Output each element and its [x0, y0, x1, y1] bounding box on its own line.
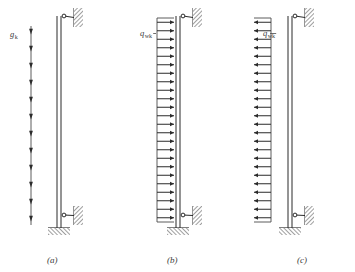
- load-label-b: qwk: [140, 28, 152, 39]
- load-arrow-down: [29, 80, 33, 86]
- load-arrowhead: [254, 80, 258, 84]
- load-arrowhead: [170, 88, 174, 92]
- structural-load-diagram: gk(a)qwk(b)qwk(c): [0, 0, 355, 272]
- load-arrowhead: [170, 216, 174, 220]
- link-pin: [62, 213, 66, 217]
- load-arrow-down: [29, 148, 33, 154]
- load-arrowhead: [170, 80, 174, 84]
- load-arrowhead: [254, 148, 258, 152]
- link-pin: [62, 14, 66, 18]
- load-arrowhead: [254, 122, 258, 126]
- load-arrowhead: [170, 156, 174, 160]
- link-pin: [293, 213, 297, 217]
- wall-hatch: [305, 206, 314, 225]
- link-pin: [293, 14, 297, 18]
- panel-caption-c: (c): [297, 255, 307, 265]
- load-arrow-down: [29, 216, 33, 222]
- load-arrowhead: [170, 105, 174, 109]
- column-c: [288, 16, 292, 228]
- load-arrowhead: [170, 97, 174, 101]
- panel-caption-a: (a): [47, 255, 58, 265]
- load-arrow-down: [29, 165, 33, 171]
- load-arrowhead: [170, 46, 174, 50]
- load-arrow-down: [29, 29, 33, 35]
- load-subscript: wk: [145, 33, 152, 39]
- load-arrowhead: [170, 165, 174, 169]
- load-arrows-b: [157, 18, 174, 222]
- load-arrowhead: [170, 20, 174, 24]
- load-arrowhead: [170, 114, 174, 118]
- diagram-canvas: gk(a)qwk(b)qwk(c): [0, 0, 355, 272]
- base-support-a: [48, 228, 70, 235]
- load-arrowhead: [170, 182, 174, 186]
- load-arrowhead: [254, 46, 258, 50]
- load-arrow-down: [29, 46, 33, 52]
- load-arrowhead: [254, 71, 258, 75]
- load-arrow-down: [29, 199, 33, 205]
- panel-a: [29, 8, 83, 235]
- load-arrowhead: [254, 20, 258, 24]
- column-b: [176, 16, 180, 228]
- load-arrowhead: [170, 207, 174, 211]
- top-support-c: [293, 8, 314, 27]
- load-arrowhead: [170, 63, 174, 67]
- bottom-support-c: [293, 206, 314, 225]
- load-arrowhead: [254, 207, 258, 211]
- base-hatch: [167, 228, 189, 235]
- bottom-support-a: [62, 206, 83, 225]
- column-a: [57, 16, 61, 228]
- load-symbol: g: [10, 29, 14, 39]
- load-arrowhead: [170, 131, 174, 135]
- base-support-c: [279, 228, 301, 235]
- load-arrow-down: [29, 114, 33, 120]
- load-arrowhead: [254, 156, 258, 160]
- load-arrowhead: [254, 97, 258, 101]
- load-arrowhead: [254, 54, 258, 58]
- load-arrowhead: [170, 148, 174, 152]
- load-arrowhead: [254, 88, 258, 92]
- load-arrowhead: [254, 105, 258, 109]
- load-arrowhead: [254, 114, 258, 118]
- load-arrow-down: [29, 97, 33, 103]
- link-pin: [181, 14, 185, 18]
- bottom-support-b: [181, 206, 202, 225]
- load-arrowhead: [170, 29, 174, 33]
- wall-hatch: [74, 206, 83, 225]
- load-arrowhead: [254, 182, 258, 186]
- wall-hatch: [193, 206, 202, 225]
- load-arrowhead: [170, 37, 174, 41]
- load-arrowhead: [254, 216, 258, 220]
- load-arrows-c: [254, 18, 271, 222]
- load-arrowhead: [254, 165, 258, 169]
- load-arrows-a: [29, 26, 33, 225]
- link-pin: [181, 213, 185, 217]
- load-arrowhead: [170, 54, 174, 58]
- load-arrow-down: [29, 63, 33, 69]
- load-arrowhead: [254, 190, 258, 194]
- base-hatch: [279, 228, 301, 235]
- base-hatch: [48, 228, 70, 235]
- base-support-b: [167, 228, 189, 235]
- panel-c: [254, 8, 314, 235]
- load-arrowhead: [170, 190, 174, 194]
- load-subscript: wk: [268, 33, 275, 39]
- load-subscript: k: [15, 34, 18, 40]
- wall-hatch: [74, 8, 83, 27]
- load-arrowhead: [254, 199, 258, 203]
- load-arrowhead: [254, 29, 258, 33]
- load-arrowhead: [170, 122, 174, 126]
- load-arrowhead: [254, 139, 258, 143]
- load-arrowhead: [254, 131, 258, 135]
- load-arrowhead: [254, 173, 258, 177]
- wall-hatch: [305, 8, 314, 27]
- load-arrowhead: [170, 71, 174, 75]
- top-support-a: [62, 8, 83, 27]
- load-arrowhead: [170, 173, 174, 177]
- panel-caption-b: (b): [167, 255, 178, 265]
- load-arrowhead: [170, 139, 174, 143]
- load-arrow-down: [29, 131, 33, 137]
- wall-hatch: [193, 8, 202, 27]
- load-arrowhead: [170, 199, 174, 203]
- load-label-a: gk: [10, 29, 18, 40]
- load-arrowhead: [254, 63, 258, 67]
